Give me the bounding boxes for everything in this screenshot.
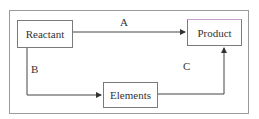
edge-c-arrow [157, 48, 224, 94]
edge-a-label: A [120, 16, 128, 28]
node-product: Product [187, 19, 242, 46]
node-elements: Elements [103, 82, 158, 108]
node-reactant: Reactant [17, 20, 73, 48]
edge-c-label: C [183, 60, 190, 72]
edge-b-label: B [31, 63, 38, 75]
node-product-label: Product [197, 27, 231, 39]
node-elements-label: Elements [110, 89, 151, 101]
node-reactant-label: Reactant [26, 28, 64, 40]
